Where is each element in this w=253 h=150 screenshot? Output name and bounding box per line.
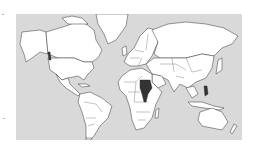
japan (216, 58, 222, 74)
south-america (78, 92, 112, 140)
arctic-islands (62, 16, 88, 24)
antarctica-edge (86, 138, 92, 140)
edge-mark (3, 118, 5, 119)
world-map (16, 14, 242, 140)
russia (152, 22, 238, 58)
madagascar (155, 108, 159, 118)
uk (122, 46, 127, 56)
edge-mark (2, 14, 4, 15)
canada (46, 22, 102, 62)
alaska (20, 30, 48, 62)
indonesia (188, 102, 224, 110)
caribbean (78, 84, 90, 87)
highlight-philippines (204, 86, 208, 96)
greenland (96, 14, 128, 44)
australia (198, 108, 228, 130)
southeast-asia (186, 86, 198, 98)
new-zealand (230, 124, 237, 134)
world-map-svg (16, 14, 242, 140)
